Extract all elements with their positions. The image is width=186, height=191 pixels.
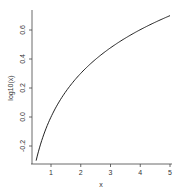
axes: 12345-0.20.00.20.40.6 bbox=[19, 10, 172, 176]
y-tick-label: 0.0 bbox=[19, 112, 26, 122]
y-axis-label: log10(x) bbox=[7, 75, 15, 100]
y-tick-label: -0.2 bbox=[19, 140, 26, 152]
y-tick-label: 0.2 bbox=[19, 83, 26, 93]
data-line bbox=[36, 16, 170, 161]
x-tick-label: 5 bbox=[168, 169, 172, 176]
chart-container: 12345-0.20.00.20.40.6 x log10(x) bbox=[0, 0, 186, 191]
y-tick-label: 0.4 bbox=[19, 54, 26, 64]
line-chart: 12345-0.20.00.20.40.6 x log10(x) bbox=[0, 0, 186, 191]
x-tick-label: 2 bbox=[79, 169, 83, 176]
x-axis-label: x bbox=[99, 181, 103, 188]
x-tick-label: 3 bbox=[109, 169, 113, 176]
x-tick-label: 4 bbox=[138, 169, 142, 176]
y-tick-label: 0.6 bbox=[19, 25, 26, 35]
x-tick-label: 1 bbox=[49, 169, 53, 176]
